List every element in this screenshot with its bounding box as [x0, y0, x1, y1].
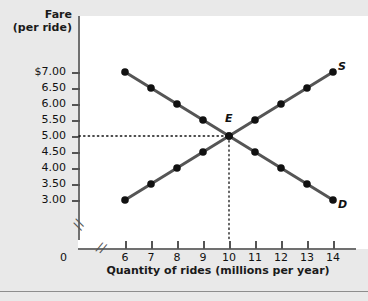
data-point: [251, 148, 259, 156]
data-point: [121, 68, 129, 76]
demand-curve-label: D: [338, 198, 347, 211]
data-point: [329, 68, 337, 76]
data-point: [147, 84, 155, 92]
data-point: [199, 148, 207, 156]
page-divider: [0, 291, 368, 292]
data-point: [199, 116, 207, 124]
data-point: [121, 196, 129, 204]
supply-curve-label: S: [338, 60, 346, 73]
x-axis-title: Quantity of rides (millions per year): [78, 264, 358, 277]
data-point: [277, 100, 285, 108]
data-point: [173, 164, 181, 172]
chart-figure: Fare (per ride) // // 0 $7.006.506.005.5…: [0, 0, 368, 301]
data-point: [225, 132, 233, 140]
data-point: [147, 180, 155, 188]
data-point: [173, 100, 181, 108]
data-point: [251, 116, 259, 124]
curves-layer: [0, 0, 368, 301]
data-point: [303, 180, 311, 188]
data-point: [303, 84, 311, 92]
data-point: [277, 164, 285, 172]
equilibrium-label: E: [225, 112, 233, 125]
data-point: [329, 196, 337, 204]
